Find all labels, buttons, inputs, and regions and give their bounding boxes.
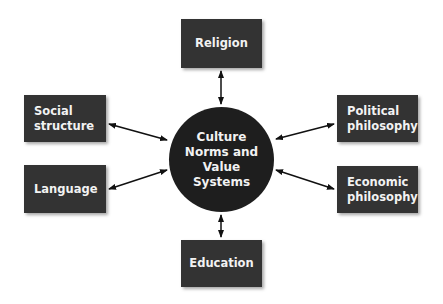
arrow-language <box>109 170 167 189</box>
node-education: Education <box>181 240 262 287</box>
node-label: Social structure <box>34 104 94 134</box>
node-label: Education <box>189 256 253 271</box>
node-language: Language <box>24 165 106 213</box>
arrow-economic-philosophy <box>276 170 334 189</box>
node-political-philosophy: Political philosophy <box>337 95 418 142</box>
node-economic-philosophy: Economic philosophy <box>337 166 418 213</box>
node-label: Religion <box>195 36 248 51</box>
node-label: Political philosophy <box>347 104 418 134</box>
node-label: Economic philosophy <box>347 175 418 205</box>
arrow-social-structure <box>109 124 167 140</box>
hub-label: Culture Norms and Value Systems <box>185 130 258 190</box>
node-social-structure: Social structure <box>24 95 106 142</box>
hub-culture-norms: Culture Norms and Value Systems <box>169 107 274 212</box>
node-religion: Religion <box>181 19 262 68</box>
node-label: Language <box>34 182 98 197</box>
arrow-political-philosophy <box>276 124 334 139</box>
